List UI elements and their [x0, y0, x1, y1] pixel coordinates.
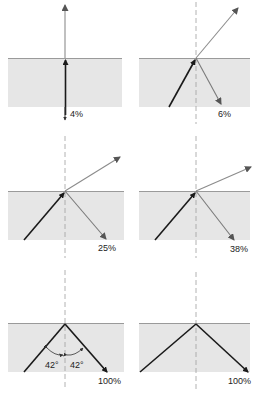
- reflected-percent-label: 4%: [70, 109, 83, 119]
- panel-2: 6%: [139, 2, 250, 124]
- panel-6: 100%: [139, 272, 251, 390]
- water-band: [139, 58, 250, 107]
- reflected-percent-label: 100%: [98, 376, 121, 386]
- panel-5: 42° 42° 100%: [8, 270, 124, 390]
- water-band: [139, 323, 250, 372]
- refraction-diagram: 4% 6% 25% 38% 42°: [0, 0, 256, 394]
- reflected-percent-label: 25%: [98, 243, 116, 253]
- panel-4: 38%: [139, 136, 251, 258]
- refracted-ray: [196, 167, 251, 191]
- refracted-ray: [196, 8, 238, 58]
- water-band: [8, 323, 124, 372]
- reflected-percent-label: 38%: [230, 244, 248, 254]
- reflected-percent-label: 100%: [228, 376, 251, 386]
- panel-1: 4%: [8, 5, 122, 120]
- critical-angle-right-label: 42°: [70, 360, 84, 370]
- water-band: [139, 191, 250, 240]
- panel-3: 25%: [8, 136, 124, 258]
- critical-angle-left-label: 42°: [45, 360, 59, 370]
- refracted-ray: [65, 157, 120, 191]
- reflected-percent-label: 6%: [218, 109, 231, 119]
- water-band: [8, 191, 124, 240]
